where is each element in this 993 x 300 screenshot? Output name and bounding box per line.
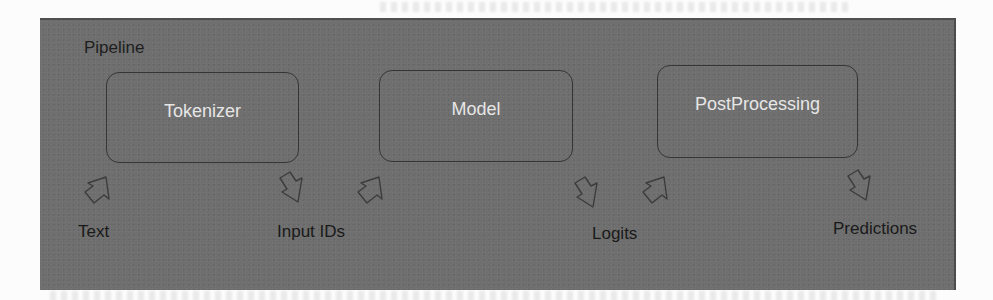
stage-postprocessing-label: PostProcessing: [695, 94, 820, 115]
block-arrow-up-icon: [82, 172, 116, 206]
stage-model: Model: [379, 70, 573, 162]
block-arrow-down-icon: [844, 168, 878, 202]
block-arrow-down-icon: [571, 175, 605, 209]
label-logits: Logits: [592, 224, 637, 244]
background-bleed-top: [380, 2, 850, 12]
stage-model-label: Model: [451, 99, 500, 120]
stage-tokenizer: Tokenizer: [106, 72, 299, 163]
block-arrow-up-icon: [355, 172, 389, 206]
label-input-ids: Input IDs: [277, 222, 345, 242]
label-predictions: Predictions: [833, 219, 917, 239]
pipeline-title: Pipeline: [84, 38, 145, 58]
block-arrow-up-icon: [640, 172, 674, 206]
block-arrow-down-icon: [276, 170, 310, 204]
background-bleed-bottom: [50, 291, 940, 300]
page: Pipeline Tokenizer Model PostProcessing …: [0, 0, 993, 300]
stage-tokenizer-label: Tokenizer: [164, 101, 241, 122]
stage-postprocessing: PostProcessing: [657, 65, 858, 158]
label-text: Text: [78, 222, 109, 242]
